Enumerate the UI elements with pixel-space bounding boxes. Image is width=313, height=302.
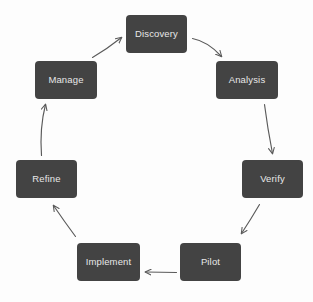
arrow-analysis-to-verify <box>265 105 273 154</box>
arrow-pilot-to-implement <box>146 272 177 273</box>
node-refine[interactable]: Refine <box>16 160 77 198</box>
node-manage-label: Manage <box>48 75 83 85</box>
cycle-diagram: Discovery Analysis Verify Pilot Implemen… <box>0 0 313 302</box>
node-discovery[interactable]: Discovery <box>126 15 187 53</box>
node-pilot-label: Pilot <box>201 257 220 267</box>
node-verify-label: Verify <box>260 174 285 184</box>
arrow-refine-to-manage <box>41 105 46 156</box>
node-manage[interactable]: Manage <box>35 61 97 99</box>
node-implement[interactable]: Implement <box>77 243 140 281</box>
node-verify[interactable]: Verify <box>242 160 303 198</box>
node-pilot[interactable]: Pilot <box>180 243 241 281</box>
arrow-implement-to-refine <box>54 206 76 237</box>
node-refine-label: Refine <box>32 174 60 184</box>
arrow-manage-to-discovery <box>93 38 122 58</box>
node-discovery-label: Discovery <box>135 29 178 39</box>
node-analysis[interactable]: Analysis <box>216 61 278 99</box>
node-implement-label: Implement <box>86 257 132 267</box>
node-analysis-label: Analysis <box>229 75 266 85</box>
arrow-discovery-to-analysis <box>193 39 222 57</box>
arrow-verify-to-pilot <box>242 205 260 234</box>
